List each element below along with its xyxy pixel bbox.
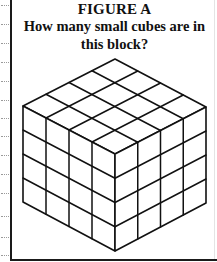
cube-block-diagram (0, 0, 217, 262)
